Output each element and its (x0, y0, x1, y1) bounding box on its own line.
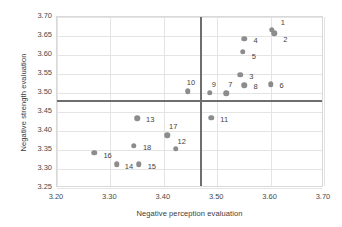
data-point-marker (272, 31, 278, 37)
reference-line-horizontal (57, 100, 322, 102)
gridline-horizontal (57, 36, 322, 37)
data-point-marker (242, 36, 248, 42)
data-point-marker (114, 161, 120, 167)
data-point-label: 14 (125, 162, 133, 171)
scatter-chart: Negative strength evaluation Negative pe… (0, 0, 342, 227)
x-axis-title: Negative perception evaluation (56, 209, 323, 218)
data-point-label: 3 (249, 71, 253, 80)
data-point-marker (268, 82, 274, 88)
x-tick-label: 3.40 (143, 192, 183, 201)
data-point-marker (240, 49, 246, 55)
y-tick-label: 3.30 (24, 163, 52, 172)
gridline-horizontal (57, 112, 322, 113)
x-tick-label: 3.30 (89, 192, 129, 201)
y-tick-label: 3.60 (24, 49, 52, 58)
data-point-label: 13 (146, 115, 154, 124)
x-tick-label: 3.50 (196, 192, 236, 201)
data-point-marker (185, 88, 191, 94)
data-point-label: 11 (220, 114, 228, 123)
data-point-label: 12 (178, 136, 186, 145)
data-point-marker (164, 132, 170, 138)
y-tick-label: 3.35 (24, 144, 52, 153)
gridline-horizontal (57, 55, 322, 56)
data-point-label: 7 (228, 80, 232, 89)
gridline-vertical (324, 17, 325, 186)
gridline-horizontal (57, 131, 322, 132)
data-point-label: 17 (169, 122, 177, 131)
data-point-marker (131, 143, 137, 149)
reference-line-vertical (200, 17, 202, 186)
data-point-label: 5 (252, 51, 256, 60)
y-tick-label: 3.55 (24, 68, 52, 77)
data-point-marker (134, 115, 140, 121)
y-tick-label: 3.65 (24, 30, 52, 39)
data-point-label: 2 (283, 35, 287, 44)
data-point-marker (237, 72, 243, 78)
data-point-marker (136, 161, 142, 167)
y-tick-label: 3.50 (24, 87, 52, 96)
data-point-marker (207, 90, 213, 96)
data-point-label: 6 (280, 81, 284, 90)
x-tick-label: 3.20 (36, 192, 76, 201)
gridline-horizontal (57, 188, 322, 189)
gridline-horizontal (57, 169, 322, 170)
gridline-horizontal (57, 74, 322, 75)
plot-area: 124536879101113171812161415 (56, 16, 323, 187)
data-point-marker (209, 115, 215, 121)
data-point-marker (92, 150, 98, 156)
data-point-label: 4 (253, 35, 257, 44)
y-tick-label: 3.45 (24, 106, 52, 115)
data-point-label: 1 (281, 17, 285, 26)
x-tick-label: 3.60 (250, 192, 290, 201)
y-tick-label: 3.25 (24, 182, 52, 191)
data-point-label: 16 (103, 150, 111, 159)
data-point-label: 8 (253, 82, 257, 91)
data-point-label: 10 (187, 78, 195, 87)
data-point-marker (242, 82, 248, 88)
y-tick-label: 3.40 (24, 125, 52, 134)
data-point-label: 15 (148, 162, 156, 171)
data-point-label: 18 (143, 142, 151, 151)
data-point-label: 9 (212, 79, 216, 88)
y-tick-label: 3.70 (24, 11, 52, 20)
data-point-marker (224, 90, 230, 96)
data-point-marker (173, 146, 179, 152)
x-tick-label: 3.70 (303, 192, 342, 201)
